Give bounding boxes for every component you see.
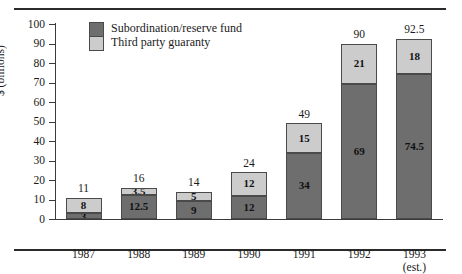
plot-area: 3811198712.53.51619889514198912122419903… bbox=[56, 24, 442, 219]
y-axis-tick-label: 20 bbox=[34, 175, 46, 187]
y-axis-tick: 50 bbox=[49, 122, 55, 123]
y-axis-tick: 80 bbox=[49, 63, 55, 64]
bar-segment-value: 9 bbox=[191, 205, 197, 216]
x-axis-category-label: 1989 bbox=[182, 248, 205, 261]
y-axis-tick: 90 bbox=[49, 44, 55, 45]
chart-legend: Subordination/reserve fund Third party g… bbox=[89, 22, 242, 51]
legend-swatch-subordination-reserve-fund bbox=[90, 23, 103, 36]
bar-segment-subordination-reserve-fund: 74.5 bbox=[396, 74, 432, 219]
y-axis-tick: 60 bbox=[49, 102, 55, 103]
legend-swatch-third-party-guaranty bbox=[90, 36, 103, 50]
bar-segment-third-party-guaranty: 18 bbox=[396, 39, 432, 74]
y-axis-tick-label: 90 bbox=[34, 38, 46, 50]
bar-segment-value: 18 bbox=[409, 51, 420, 62]
bar-total-label: 90 bbox=[354, 29, 366, 41]
bar-segment-value: 69 bbox=[354, 146, 365, 157]
bar-segment-third-party-guaranty: 5 bbox=[176, 192, 212, 202]
y-axis-tick-label: 30 bbox=[34, 155, 46, 167]
bar-total-label: 49 bbox=[298, 109, 310, 121]
y-axis-tick-label: 80 bbox=[34, 58, 46, 70]
x-axis-category-sublabel: (est.) bbox=[403, 261, 426, 274]
bar-segment-subordination-reserve-fund: 12.5 bbox=[121, 195, 157, 219]
bar-segment-subordination-reserve-fund: 3 bbox=[66, 213, 102, 219]
bar-segment-value: 15 bbox=[299, 133, 310, 144]
y-axis-tick: 0 bbox=[49, 219, 55, 220]
y-axis-tick: 100 bbox=[49, 24, 55, 25]
bar-segment-value: 12.5 bbox=[129, 201, 148, 212]
y-axis-tick-label: 70 bbox=[34, 77, 46, 89]
y-axis-tick: 30 bbox=[49, 161, 55, 162]
y-axis-title: $ (billions) bbox=[0, 45, 6, 96]
legend-swatches bbox=[89, 22, 104, 51]
y-axis-tick-label: 0 bbox=[39, 214, 45, 226]
bar-segment-value: 12 bbox=[244, 202, 255, 213]
x-axis-category-label: 1991 bbox=[293, 248, 316, 261]
x-axis-category-label: 1993(est.) bbox=[403, 248, 426, 274]
bar-segment-third-party-guaranty: 3.5 bbox=[121, 188, 157, 195]
bar-1991: 341549 bbox=[286, 123, 322, 219]
y-axis-tick-label: 60 bbox=[34, 97, 46, 109]
bar-segment-third-party-guaranty: 8 bbox=[66, 198, 102, 214]
y-axis-tick-label: 40 bbox=[34, 136, 46, 148]
bar-total-label: 92.5 bbox=[404, 24, 424, 36]
bar-1987: 3811 bbox=[66, 198, 102, 219]
x-axis-category-label: 1987 bbox=[72, 248, 95, 261]
bar-segment-value: 5 bbox=[191, 192, 197, 202]
bar-segment-value: 34 bbox=[299, 180, 310, 191]
bar-segment-subordination-reserve-fund: 34 bbox=[286, 153, 322, 219]
bar-segment-third-party-guaranty: 21 bbox=[341, 44, 377, 85]
bar-total-label: 16 bbox=[133, 173, 145, 185]
bar-segment-value: 74.5 bbox=[405, 141, 424, 152]
bar-segment-value: 12 bbox=[244, 178, 255, 189]
bar-segment-third-party-guaranty: 15 bbox=[286, 123, 322, 152]
bar-segment-subordination-reserve-fund: 9 bbox=[176, 201, 212, 219]
bar-1989: 9514 bbox=[176, 192, 212, 219]
bar-1992: 692190 bbox=[341, 44, 377, 220]
top-rule bbox=[14, 8, 446, 10]
legend-labels: Subordination/reserve fund Third party g… bbox=[111, 22, 242, 49]
legend-label-third-party-guaranty: Third party guaranty bbox=[111, 36, 242, 50]
y-axis-tick-label: 10 bbox=[34, 194, 46, 206]
bar-segment-value: 3 bbox=[81, 213, 87, 219]
x-axis-category-label: 1990 bbox=[238, 248, 261, 261]
y-axis-tick: 20 bbox=[49, 180, 55, 181]
x-axis-line bbox=[55, 219, 443, 220]
bar-total-label: 24 bbox=[243, 158, 255, 170]
bar-1990: 121224 bbox=[231, 172, 267, 219]
bar-segment-third-party-guaranty: 12 bbox=[231, 172, 267, 195]
y-axis-tick-label: 50 bbox=[34, 116, 46, 128]
bar-total-label: 11 bbox=[78, 183, 89, 195]
y-axis-tick-label: 100 bbox=[28, 19, 45, 31]
bar-segment-value: 21 bbox=[354, 58, 365, 69]
x-axis-category-label: 1992 bbox=[348, 248, 371, 261]
bar-1993: 74.51892.5 bbox=[396, 39, 432, 219]
bar-segment-subordination-reserve-fund: 69 bbox=[341, 84, 377, 219]
y-axis-tick: 40 bbox=[49, 141, 55, 142]
y-axis-tick: 70 bbox=[49, 83, 55, 84]
bar-segment-subordination-reserve-fund: 12 bbox=[231, 196, 267, 219]
bar-segment-value: 3.5 bbox=[132, 188, 146, 195]
legend-label-subordination-reserve-fund: Subordination/reserve fund bbox=[111, 22, 242, 36]
bar-segment-value: 8 bbox=[81, 200, 87, 211]
y-axis-tick: 10 bbox=[49, 200, 55, 201]
bar-1988: 12.53.516 bbox=[121, 188, 157, 219]
bar-total-label: 14 bbox=[188, 177, 200, 189]
x-axis-category-label: 1988 bbox=[127, 248, 150, 261]
